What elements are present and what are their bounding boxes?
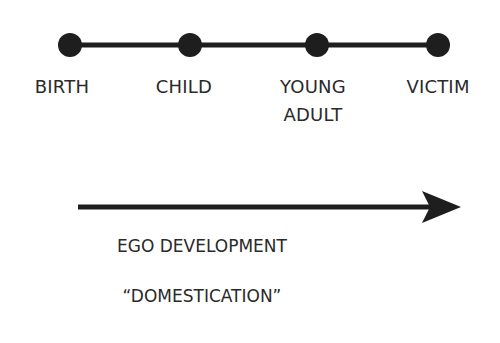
timeline-dot-child: [178, 33, 202, 57]
stage-label-child: CHILD: [156, 76, 212, 97]
stage-label-adult: ADULT: [284, 104, 343, 125]
timeline-dot-young-adult: [305, 33, 329, 57]
stage-label-birth: BIRTH: [35, 76, 89, 97]
arrow-caption-ego-development: EGO DEVELOPMENT: [117, 236, 287, 256]
arrow-caption-domestication: “DOMESTICATION”: [123, 286, 282, 306]
stage-label-young: YOUNG: [280, 76, 346, 97]
stage-label-victim: VICTIM: [406, 76, 469, 97]
timeline-dot-birth: [58, 33, 82, 57]
timeline-dot-victim: [426, 33, 450, 57]
